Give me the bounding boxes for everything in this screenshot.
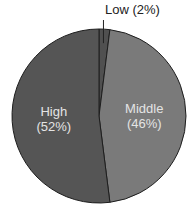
slice-label-middle-pct: (46%) <box>109 116 179 131</box>
slice-label-middle-name: Middle <box>109 101 179 116</box>
slice-label-middle: Middle (46%) <box>109 101 179 131</box>
slice-label-low: Low (2%) <box>105 2 160 17</box>
slice-label-high-name: High <box>19 104 89 119</box>
slice-label-high-pct: (52%) <box>19 119 89 134</box>
slice-label-high: High (52%) <box>19 104 89 134</box>
